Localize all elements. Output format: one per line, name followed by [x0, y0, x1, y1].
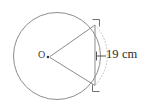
radius-line-lower: [50, 58, 95, 86]
circle-center-label: O: [38, 49, 45, 61]
geometry-figure: O 19 cm: [0, 0, 152, 112]
main-circle: [14, 13, 101, 100]
dimension-label: 19 cm: [106, 47, 137, 61]
radius-line-upper: [50, 25, 95, 57]
center-point-dot: [47, 56, 50, 59]
bottom-right-bracket-icon: [93, 85, 100, 92]
